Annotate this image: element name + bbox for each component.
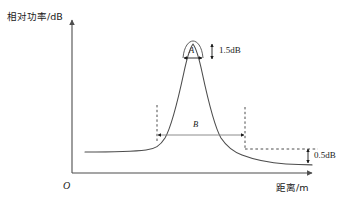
power-curve	[85, 44, 312, 165]
y-axis-label: 相对功率/dB	[7, 9, 63, 23]
peak-height-label: 1.5dB	[219, 45, 241, 55]
peak-width-label: A	[189, 45, 194, 55]
plot-canvas	[0, 0, 343, 207]
x-axis-label: 距离/m	[276, 180, 308, 194]
pedestal-width-label: B	[193, 119, 198, 129]
step-height-label: 0.5dB	[314, 150, 336, 160]
figure-container: 相对功率/dB 距离/m O A B 1.5dB 0.5dB	[0, 0, 343, 207]
origin-label: O	[63, 180, 70, 191]
